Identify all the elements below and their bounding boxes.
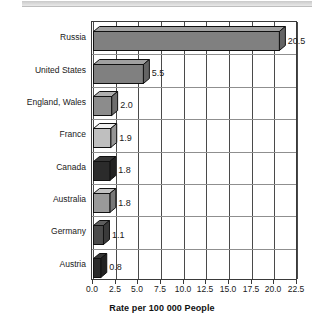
bar-value-label: 5.5 <box>152 68 165 78</box>
bar-3d-block <box>93 123 118 149</box>
x-tick-label: 22.5 <box>276 284 316 295</box>
y-axis-label-united-states: United States <box>0 65 86 75</box>
bar-value-label: 0.8 <box>109 262 122 272</box>
top-decorative-band <box>22 1 312 7</box>
y-gridline <box>92 249 296 250</box>
x-gridline <box>161 22 162 279</box>
y-gridline <box>92 152 296 153</box>
y-axis-label-russia: Russia <box>0 32 86 42</box>
bar-3d-block <box>93 188 117 214</box>
bar-value-label: 1.1 <box>112 230 125 240</box>
y-axis-category-labels: RussiaUnited StatesEngland, WalesFranceC… <box>0 21 86 280</box>
bar-value-label: 20.5 <box>288 36 306 46</box>
x-axis-ticks: 0.02.55.07.510.012.515.017.520.022.5 <box>91 280 297 294</box>
x-axis-title: Rate per 100 000 People <box>0 303 324 313</box>
y-axis-label-england-wales: England, Wales <box>0 97 86 107</box>
bar-value-label: 1.8 <box>118 198 131 208</box>
bar-3d-block <box>93 220 111 246</box>
y-gridline <box>92 54 296 55</box>
y-gridline <box>92 119 296 120</box>
y-gridline <box>92 216 296 217</box>
plot-area: 20.55.52.01.91.81.81.10.8 <box>91 21 297 280</box>
x-gridline <box>206 22 207 279</box>
y-axis-label-canada: Canada <box>0 162 86 172</box>
bar-3d-block <box>93 26 287 52</box>
bar-3d-block <box>93 253 108 279</box>
chart-figure: RussiaUnited StatesEngland, WalesFranceC… <box>0 0 324 323</box>
x-gridline <box>252 22 253 279</box>
y-gridline <box>92 87 296 88</box>
y-axis-label-france: France <box>0 129 86 139</box>
y-gridline <box>92 184 296 185</box>
bar-3d-block <box>93 59 151 85</box>
y-axis-label-australia: Australia <box>0 194 86 204</box>
bar-value-label: 1.8 <box>118 165 131 175</box>
x-gridline <box>229 22 230 279</box>
bar-value-label: 1.9 <box>119 133 132 143</box>
y-axis-label-austria: Austria <box>0 259 86 269</box>
x-gridline <box>297 22 298 279</box>
bar-3d-block <box>93 91 119 117</box>
x-gridline <box>274 22 275 279</box>
bar-3d-block <box>93 156 117 182</box>
y-axis-label-germany: Germany <box>0 226 86 236</box>
bar-value-label: 2.0 <box>120 100 133 110</box>
x-gridline <box>184 22 185 279</box>
